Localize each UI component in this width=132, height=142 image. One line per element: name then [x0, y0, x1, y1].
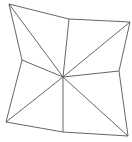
spokes: [6, 4, 130, 136]
spoke-line-rm: [63, 71, 119, 77]
outline-polygon: [6, 4, 130, 136]
spoke-line-tm: [63, 19, 69, 77]
pinwheel-diagram: [0, 0, 132, 142]
spoke-line-br: [63, 77, 128, 136]
spoke-line-bl: [6, 77, 63, 122]
outline: [6, 4, 130, 136]
